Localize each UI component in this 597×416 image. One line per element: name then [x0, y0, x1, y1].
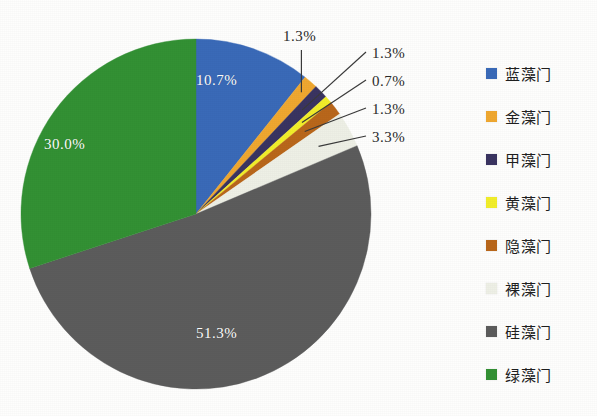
legend-item[interactable]: 隐藻门 [486, 224, 596, 267]
slice-label-lanzaomen: 10.7% [196, 72, 237, 89]
legend-color-swatch [486, 154, 497, 165]
legend-color-swatch [486, 240, 497, 251]
callout-label-jiazaomen: 1.3% [372, 45, 405, 62]
legend-item-label: 金藻门 [505, 106, 552, 127]
slice-label-lvzaomen: 30.0% [44, 136, 85, 153]
legend-item[interactable]: 裸藻门 [486, 267, 596, 310]
callout-label-luozaomen: 3.3% [372, 129, 405, 146]
legend-item-label: 蓝藻门 [505, 63, 552, 84]
legend-color-swatch [486, 326, 497, 337]
pie-chart-plot-area: 10.7% 30.0% 51.3% 1.3% 1.3% 0.7% 1.3% 3.… [0, 0, 430, 416]
legend-item-label: 隐藻门 [505, 235, 552, 256]
legend-item[interactable]: 金藻门 [486, 95, 596, 138]
legend-color-swatch [486, 111, 497, 122]
legend-color-swatch [486, 68, 497, 79]
legend-item[interactable]: 甲藻门 [486, 138, 596, 181]
chart-legend: 蓝藻门金藻门甲藻门黄藻门隐藻门裸藻门硅藻门绿藻门 [486, 52, 596, 396]
callout-label-jinzaomen: 1.3% [283, 28, 316, 45]
legend-item-label: 甲藻门 [505, 149, 552, 170]
legend-color-swatch [486, 369, 497, 380]
callout-label-yinzaomen: 1.3% [372, 101, 405, 118]
pie-chart-figure: 10.7% 30.0% 51.3% 1.3% 1.3% 0.7% 1.3% 3.… [0, 0, 597, 416]
legend-item-label: 绿藻门 [505, 364, 552, 385]
legend-item[interactable]: 黄藻门 [486, 181, 596, 224]
legend-item[interactable]: 硅藻门 [486, 310, 596, 353]
callout-label-huangzaomen: 0.7% [372, 73, 405, 90]
legend-item-label: 黄藻门 [505, 192, 552, 213]
legend-color-swatch [486, 197, 497, 208]
slice-label-guizaomen: 51.3% [196, 325, 237, 342]
legend-item[interactable]: 绿藻门 [486, 353, 596, 396]
legend-item-label: 硅藻门 [505, 321, 552, 342]
legend-item-label: 裸藻门 [505, 278, 552, 299]
legend-item[interactable]: 蓝藻门 [486, 52, 596, 95]
legend-color-swatch [486, 283, 497, 294]
pie-chart-svg [0, 0, 430, 416]
